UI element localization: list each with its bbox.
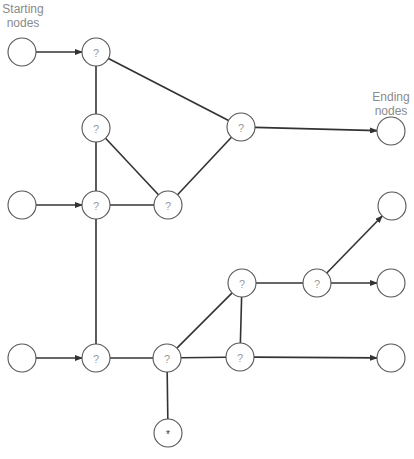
end-node-e2 [378,192,406,220]
question-mark-symbol: ? [164,353,170,365]
question-mark-symbol: ? [93,200,99,212]
unknown-node-q3: ? [82,191,110,219]
unknown-node-q5: ? [227,113,255,141]
node-circle [8,38,36,66]
edge-q10-e2 [327,216,382,273]
unknown-node-q10: ? [303,269,331,297]
question-mark-symbol: ? [165,200,171,212]
node-circle [377,344,405,372]
unknown-node-q7: ? [153,344,181,372]
edge-q9-e4 [254,357,377,358]
edge-q7-x1 [167,372,168,419]
unknown-node-q9: ? [226,343,254,371]
question-mark-symbol: ? [93,353,99,365]
question-mark-symbol: ? [93,47,99,59]
node-circle [377,269,405,297]
edge-q4-q5 [178,137,232,195]
node-graph-diagram: ??????????* [0,0,414,459]
edge-q7-q9 [181,357,226,358]
unknown-node-q6: ? [82,344,110,372]
question-mark-symbol: ? [239,278,245,290]
edge-q2-q4 [106,138,159,195]
end-node-e3 [377,269,405,297]
node-circle [8,344,36,372]
edge-q7-q8 [177,293,232,348]
start-node-s1 [8,38,36,66]
edge-q1-q5 [108,58,228,120]
unknown-node-q4: ? [154,191,182,219]
edge-q5-e1 [255,127,377,130]
start-node-s3 [8,344,36,372]
node-circle [8,191,36,219]
edge-q8-q9 [240,297,241,343]
end-node-e4 [377,344,405,372]
node-circle [377,117,405,145]
unknown-node-q8: ? [228,269,256,297]
end-node-e1 [377,117,405,145]
special-node-x1: * [154,419,182,447]
nodes-layer: ??????????* [8,38,406,447]
unknown-node-q2: ? [82,114,110,142]
question-mark-symbol: ? [93,123,99,135]
question-mark-symbol: ? [314,278,320,290]
question-mark-symbol: ? [238,122,244,134]
start-node-s2 [8,191,36,219]
question-mark-symbol: ? [237,352,243,364]
unknown-node-q1: ? [82,38,110,66]
node-circle [378,192,406,220]
asterisk-symbol: * [166,429,170,440]
